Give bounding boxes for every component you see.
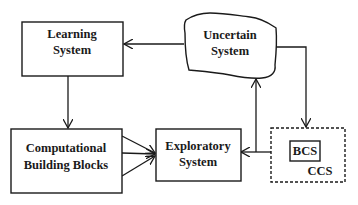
edge-computational-to-exploratory-middle [122, 153, 155, 154]
edge-computational-to-exploratory-upper [122, 136, 155, 153]
exploratory-label-line2: System [179, 155, 218, 169]
computational-label-line2: Building Blocks [24, 158, 109, 172]
computational-label-line1: Computational [26, 141, 107, 155]
node-ccs: BCS CCS [271, 128, 345, 182]
learning-system-label-line2: System [53, 43, 92, 57]
bcs-label: BCS [293, 144, 317, 158]
ccs-label: CCS [307, 164, 332, 178]
node-computational-building-blocks: Computational Building Blocks [11, 129, 122, 193]
edge-uncertain-to-ccs [276, 47, 306, 127]
node-learning-system: Learning System [22, 22, 123, 76]
node-uncertain-system: Uncertain System [184, 13, 276, 78]
learning-system-label-line1: Learning [47, 27, 97, 41]
node-exploratory-system: Exploratory System [156, 129, 241, 181]
uncertain-system-label-line2: System [211, 44, 250, 58]
edge-computational-to-exploratory-lower [122, 156, 155, 176]
diagram-canvas: Learning System Uncertain System Computa… [0, 0, 358, 205]
exploratory-label-line1: Exploratory [165, 139, 231, 153]
uncertain-system-label-line1: Uncertain [203, 28, 257, 42]
